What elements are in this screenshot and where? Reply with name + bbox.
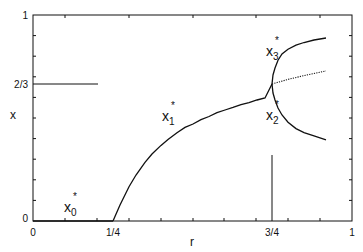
x-tick-0: 0 — [30, 227, 36, 238]
branch-x1-unstable — [272, 71, 326, 84]
y-minor-ticks — [33, 36, 352, 201]
plot-frame — [33, 15, 352, 221]
label-x2: x2 * — [266, 99, 279, 126]
svg-text:*: * — [73, 191, 77, 202]
x-tick-1: 1 — [349, 227, 355, 238]
bifurcation-chart: 1 2/3 0 0 1/4 3/4 1 r x x0 * x1 * x2 * x… — [0, 0, 363, 252]
x-axis-label: r — [190, 235, 194, 249]
label-x3: x3 * — [266, 35, 279, 62]
x-tick-three-quarters: 3/4 — [265, 227, 279, 238]
branch-x3 — [272, 38, 326, 84]
y-tick-1: 1 — [22, 10, 28, 21]
y-tick-0: 0 — [22, 213, 28, 224]
y-axis-label: x — [10, 108, 16, 122]
x-tick-one-quarter: 1/4 — [106, 227, 120, 238]
label-x0: x0 * — [64, 191, 77, 218]
label-x1: x1 * — [162, 100, 175, 127]
svg-text:*: * — [171, 100, 175, 111]
x-minor-ticks — [65, 15, 320, 221]
y-tick-two-thirds: 2/3 — [14, 79, 28, 90]
svg-text:*: * — [275, 99, 279, 110]
svg-text:*: * — [275, 35, 279, 46]
branch-x1 — [113, 84, 272, 221]
branch-x2 — [272, 84, 326, 140]
